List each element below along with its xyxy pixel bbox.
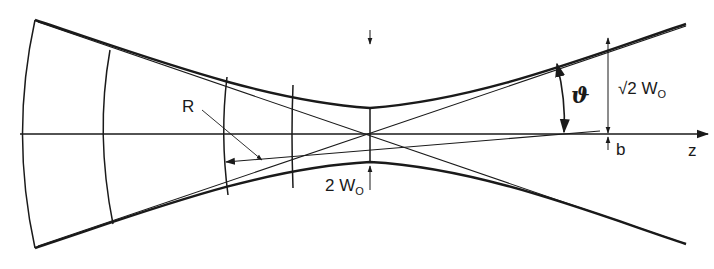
wavefront-mid bbox=[224, 77, 228, 195]
label-waist: 2 WO bbox=[325, 177, 364, 197]
label-sqrt2-w0: √2 WO bbox=[618, 80, 666, 100]
sqrt2-prefix: √2 bbox=[618, 79, 637, 98]
label-divergence-angle: ϑ bbox=[571, 84, 590, 106]
label-radius-of-curvature: R bbox=[182, 98, 194, 115]
theta-arc bbox=[557, 64, 564, 132]
waist-sub: O bbox=[355, 185, 364, 197]
waist-prefix: 2 bbox=[325, 176, 334, 195]
waist-main: W bbox=[339, 176, 355, 195]
asymptote-descending bbox=[38, 22, 686, 244]
asymptote-ascending bbox=[38, 26, 686, 246]
sqrt2-main: W bbox=[642, 79, 658, 98]
label-axis-z: z bbox=[688, 142, 697, 159]
radius-leader bbox=[202, 110, 262, 160]
wavefront-left bbox=[103, 50, 113, 224]
gaussian-beam-diagram bbox=[0, 0, 714, 269]
sqrt2-sub: O bbox=[658, 88, 667, 100]
beam-envelope-bottom bbox=[35, 162, 686, 248]
wavefront-near bbox=[292, 85, 293, 188]
label-confocal-b: b bbox=[616, 141, 625, 158]
radius-ray bbox=[226, 131, 600, 162]
